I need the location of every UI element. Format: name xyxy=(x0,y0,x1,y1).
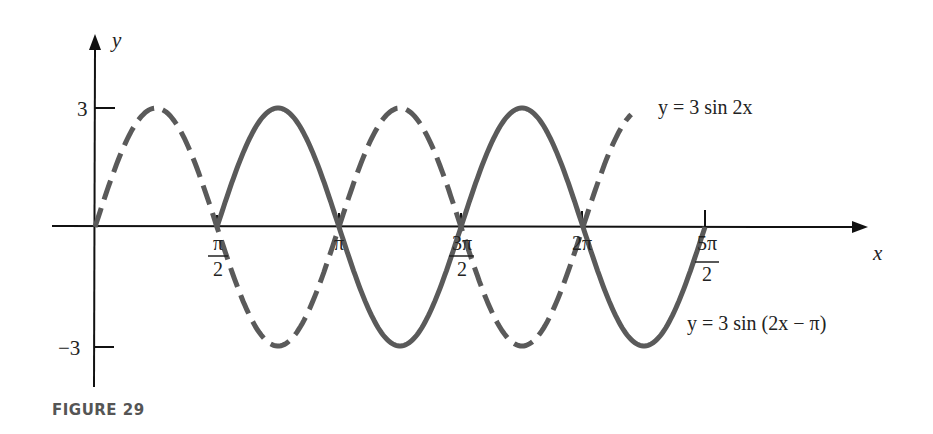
x-tick-label-pi: π xyxy=(334,232,344,254)
x-tick-label-pi-over-2-den: 2 xyxy=(213,258,223,280)
x-tick-label-5pi-over-2-den: 2 xyxy=(702,263,712,285)
y-axis xyxy=(94,48,95,387)
x-axis-arrow-icon xyxy=(852,221,868,233)
y-axis-label: y xyxy=(110,28,122,52)
x-tick-label-5pi-over-2-num: 5π xyxy=(697,232,717,254)
y-axis-arrow-icon xyxy=(89,34,101,50)
x-axis xyxy=(52,226,856,227)
figure-caption: FIGURE 29 xyxy=(52,401,145,419)
y-tick-label-neg3: −3 xyxy=(58,336,80,360)
label-3-sin-2x-minus-pi: y = 3 sin (2x − π) xyxy=(687,312,826,335)
x-tick-label-3pi-over-2-num: 3π xyxy=(452,232,472,254)
label-3-sin-2x: y = 3 sin 2x xyxy=(658,96,753,119)
sine-graph: y 3 −3 x π 2 π 3π 2 2π 5π 2 xyxy=(0,0,933,434)
y-tick-label-3: 3 xyxy=(77,97,88,121)
x-tick-labels: π 2 π 3π 2 2π 5π 2 xyxy=(208,232,719,285)
x-axis-label: x xyxy=(872,241,883,265)
x-tick-label-pi-over-2-num: π xyxy=(213,232,223,254)
x-tick-label-2pi: 2π xyxy=(572,232,592,254)
x-tick-label-3pi-over-2-den: 2 xyxy=(457,258,467,280)
